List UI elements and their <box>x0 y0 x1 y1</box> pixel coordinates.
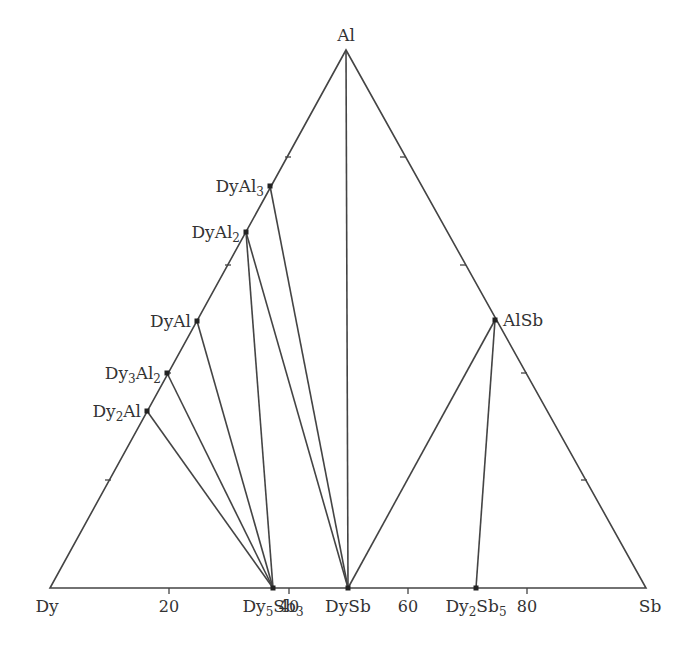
compound-label-dyal3: DyAl3 <box>215 176 264 199</box>
compound-label-dysb: DySb <box>325 596 371 616</box>
compound-label-dyal2: DyAl2 <box>191 222 240 245</box>
tie-line <box>270 186 348 588</box>
tie-line <box>246 232 273 588</box>
vertex-label-sb: Sb <box>639 596 662 616</box>
tie-line <box>348 320 495 588</box>
vertex-label-al: Al <box>336 25 355 45</box>
tie-line <box>147 411 273 588</box>
tie-line <box>246 232 348 588</box>
tick-label: 80 <box>517 597 537 616</box>
vertex-label-dy: Dy <box>35 596 59 616</box>
compound-points: DyAl3DyAl2DyAlDy3Al2Dy2AlAlSbDy5Sb3DySbD… <box>92 176 543 619</box>
compound-label-dy2sb5: Dy2Sb5 <box>445 596 506 619</box>
tie-line <box>197 321 273 588</box>
tick-label: 20 <box>159 597 179 616</box>
compound-point <box>165 371 170 376</box>
compound-point <box>493 318 498 323</box>
compound-point <box>195 319 200 324</box>
compound-point <box>346 586 351 591</box>
compound-point <box>145 409 150 414</box>
compound-label-dy2al: Dy2Al <box>92 401 141 424</box>
compound-label-dy3al2: Dy3Al2 <box>105 363 161 386</box>
compound-point <box>474 586 479 591</box>
compound-point <box>268 184 273 189</box>
compound-label-dy5sb3: Dy5Sb3 <box>242 596 303 619</box>
ternary-phase-diagram: 20406080 DyAl3DyAl2DyAlDy3Al2Dy2AlAlSbDy… <box>0 0 679 658</box>
tie-line <box>346 50 348 588</box>
tick-label: 60 <box>398 597 418 616</box>
tie-line <box>167 373 273 588</box>
compound-point <box>244 230 249 235</box>
compound-label-alsb: AlSb <box>502 310 543 330</box>
compound-label-dyal: DyAl <box>150 311 191 331</box>
compound-point <box>271 586 276 591</box>
tie-line <box>476 320 495 588</box>
